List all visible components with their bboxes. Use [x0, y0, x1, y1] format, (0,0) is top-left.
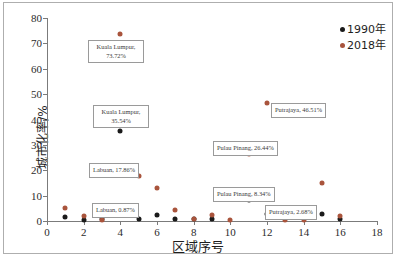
data-point	[265, 100, 270, 105]
data-point	[320, 212, 325, 217]
y-tick-mark	[43, 170, 47, 171]
data-point	[228, 218, 233, 223]
data-point	[191, 217, 196, 222]
annotation-putrajaya-2018: Putrajaya, 46.51%	[271, 103, 326, 118]
x-tick-mark	[120, 221, 121, 225]
data-point	[173, 207, 178, 212]
data-point	[118, 128, 123, 133]
x-tick-mark	[377, 221, 378, 225]
legend-item-1990[interactable]: 1990年	[340, 22, 386, 38]
annotation-putrajaya-1990: Putrajaya, 2.68%	[265, 205, 317, 220]
legend-label-1990: 1990年	[347, 22, 386, 38]
legend-item-2018[interactable]: 2018年	[340, 38, 386, 54]
data-point	[338, 213, 343, 218]
annotation-kuala-lumpur-2018: Kuala Lumpur, 73.72%	[88, 40, 144, 63]
data-point	[63, 205, 68, 210]
y-tick-mark	[43, 43, 47, 44]
annotation-kuala-lumpur-1990: Kuala Lumpur, 35.54%	[93, 105, 149, 128]
annotation-line-1: Kuala Lumpur,	[97, 43, 136, 50]
figure-caption-strip	[0, 256, 396, 273]
legend-marker-icon-1990	[340, 27, 345, 32]
y-tick-mark	[43, 94, 47, 95]
x-tick-mark	[47, 221, 48, 225]
data-point	[320, 181, 325, 186]
chart-legend: 1990年 2018年	[340, 22, 386, 54]
scatter-chart-figure: 城市化率/% 区域序号 01020304050607080 0246810121…	[0, 0, 396, 273]
data-point	[155, 185, 160, 190]
y-tick-mark	[43, 120, 47, 121]
x-tick-mark	[157, 221, 158, 225]
data-point	[63, 215, 68, 220]
annotation-line-2: 35.54%	[111, 117, 131, 124]
y-tick-mark	[43, 69, 47, 70]
annotation-line-2: 73.72%	[106, 52, 126, 59]
data-point	[81, 214, 86, 219]
annotation-labuan-1990: Labuan, 0.87%	[92, 203, 139, 218]
data-point	[173, 216, 178, 221]
y-tick-mark	[43, 145, 47, 146]
data-point	[210, 213, 215, 218]
data-point	[155, 213, 160, 218]
legend-marker-icon-2018	[340, 43, 345, 48]
x-tick-mark	[267, 221, 268, 225]
data-point	[118, 31, 123, 36]
x-axis-title: 区域序号	[0, 236, 396, 255]
data-point	[100, 217, 105, 222]
annotation-pulau-pinang-2018: Pulau Pinang, 26.44%	[213, 141, 278, 156]
legend-label-2018: 2018年	[347, 38, 386, 54]
y-tick-mark	[43, 196, 47, 197]
annotation-labuan-2018: Labuan, 17.86%	[89, 163, 139, 178]
y-tick-mark	[43, 18, 47, 19]
annotation-pulau-pinang-1990: Pulau Pinang, 8.34%	[213, 187, 275, 202]
annotation-line-1: Kuala Lumpur,	[102, 108, 141, 115]
